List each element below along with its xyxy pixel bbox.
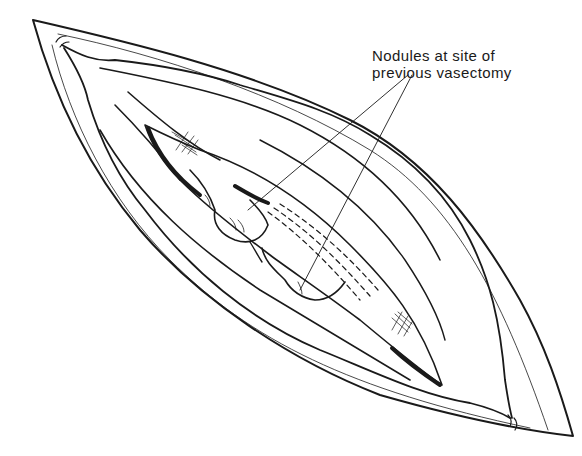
annotation-line-2: previous vasectomy: [372, 64, 512, 81]
annotation-line-1: Nodules at site of: [372, 47, 512, 64]
wound-edge-lower: [64, 48, 510, 418]
inner-skin-line: [58, 34, 548, 430]
nodule-upper: [190, 170, 268, 242]
annotation-label: Nodules at site of previous vasectomy: [372, 47, 512, 81]
pointer-line-lower: [300, 75, 412, 290]
vas-sheath: [145, 125, 442, 385]
outer-skin-edge: [33, 20, 573, 436]
wound-edge-upper: [62, 45, 512, 418]
